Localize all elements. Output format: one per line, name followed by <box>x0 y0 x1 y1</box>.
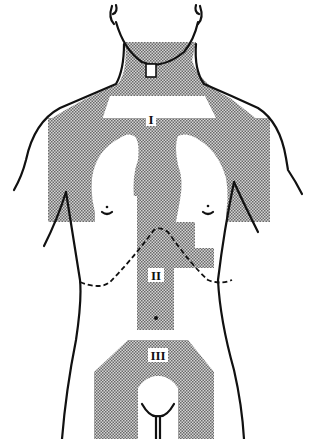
region-3-label: III <box>148 348 168 363</box>
region-1-label: I <box>146 112 156 127</box>
svg-text:I: I <box>148 112 153 127</box>
svg-text:II: II <box>151 268 161 283</box>
region-1-shading <box>48 42 270 248</box>
torso-diagram: I II III <box>0 0 314 439</box>
region-2-label: II <box>148 268 164 283</box>
svg-text:III: III <box>150 348 165 363</box>
region-2-shading <box>137 248 214 330</box>
